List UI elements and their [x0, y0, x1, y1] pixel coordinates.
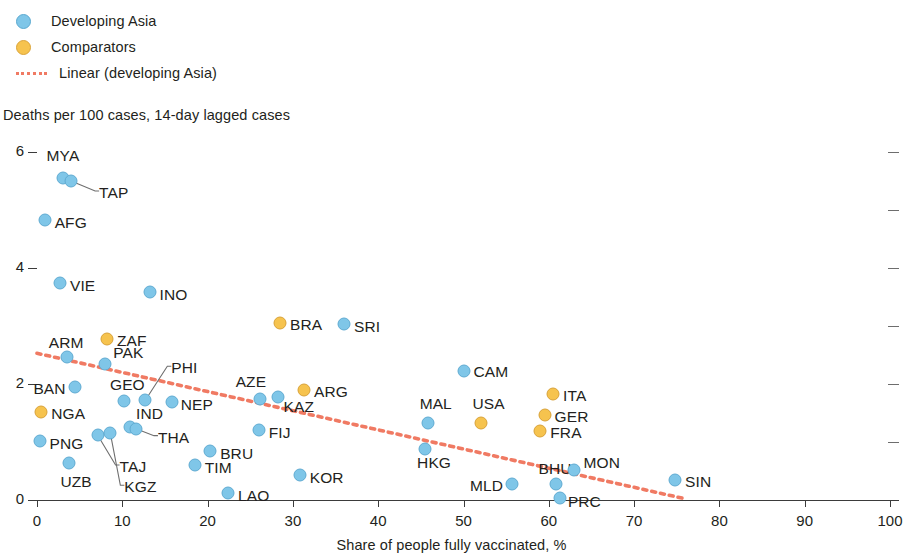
y-tick-right-2 — [888, 384, 899, 385]
data-point-geo[interactable] — [118, 394, 131, 407]
point-label-png: PNG — [50, 435, 84, 453]
data-point-pak[interactable] — [99, 357, 112, 370]
point-label-fra: FRA — [550, 424, 581, 442]
data-point-bru[interactable] — [204, 444, 217, 457]
point-label-bru: BRU — [220, 445, 253, 463]
y-tick-right-5 — [888, 210, 899, 211]
point-label-arg: ARG — [314, 383, 348, 401]
data-point-bhu[interactable] — [550, 478, 563, 491]
data-point-kor[interactable] — [293, 469, 306, 482]
point-label-ind: IND — [136, 405, 163, 423]
x-tick-label-80: 80 — [699, 512, 739, 529]
x-tick-20 — [208, 500, 209, 507]
point-label-ino: INO — [160, 286, 188, 304]
x-tick-90 — [805, 500, 806, 507]
data-point-aze[interactable] — [253, 393, 266, 406]
y-tick-right-1 — [888, 442, 899, 443]
point-label-tha: THA — [158, 429, 189, 447]
y-tick-label-2: 2 — [6, 374, 24, 391]
x-tick-label-70: 70 — [614, 512, 654, 529]
point-label-hkg: HKG — [417, 454, 451, 472]
x-tick-80 — [719, 500, 720, 507]
data-point-ban[interactable] — [69, 380, 82, 393]
data-point-afg[interactable] — [38, 214, 51, 227]
data-point-prc[interactable] — [553, 491, 566, 504]
x-tick-label-100: 100 — [870, 512, 903, 529]
point-label-nep: NEP — [181, 396, 213, 414]
y-tick-right-6 — [888, 152, 899, 153]
data-point-mon[interactable] — [567, 463, 580, 476]
point-label-vie: VIE — [70, 277, 95, 295]
x-tick-label-10: 10 — [102, 512, 142, 529]
x-tick-50 — [464, 500, 465, 507]
data-point-nep[interactable] — [165, 395, 178, 408]
data-point-usa[interactable] — [474, 417, 487, 430]
y-tick-label-6: 6 — [6, 142, 24, 159]
data-point-tap[interactable] — [65, 175, 78, 188]
data-point-fra[interactable] — [534, 424, 547, 437]
data-point-kgz[interactable] — [104, 427, 117, 440]
point-label-bra: BRA — [290, 316, 322, 334]
x-tick-30 — [293, 500, 294, 507]
data-point-arg[interactable] — [297, 383, 310, 396]
data-point-tim[interactable] — [188, 459, 201, 472]
x-tick-label-40: 40 — [358, 512, 398, 529]
point-label-tap: TAP — [99, 184, 128, 202]
point-label-afg: AFG — [55, 214, 87, 232]
point-label-sri: SRI — [354, 318, 380, 336]
x-tick-100 — [890, 500, 891, 507]
data-point-fij[interactable] — [252, 424, 265, 437]
point-label-mya: MYA — [47, 147, 80, 165]
y-tick-right-3 — [888, 326, 899, 327]
x-tick-label-0: 0 — [17, 512, 57, 529]
x-tick-label-90: 90 — [785, 512, 825, 529]
data-point-kaz[interactable] — [271, 391, 284, 404]
y-tick-6 — [28, 152, 37, 153]
data-point-mal[interactable] — [421, 417, 434, 430]
x-tick-10 — [122, 500, 123, 507]
y-tick-0 — [28, 500, 37, 501]
x-tick-label-20: 20 — [188, 512, 228, 529]
y-tick-4 — [28, 268, 37, 269]
data-point-nga[interactable] — [35, 405, 48, 418]
point-label-zaf: ZAF — [117, 332, 147, 350]
data-point-ger[interactable] — [538, 408, 551, 421]
point-label-sin: SIN — [685, 473, 711, 491]
chart-page: Developing Asia Comparators Linear (deve… — [0, 0, 903, 560]
data-point-cam[interactable] — [457, 365, 470, 378]
data-point-taj[interactable] — [91, 429, 104, 442]
point-label-ita: ITA — [563, 387, 586, 405]
data-point-zaf[interactable] — [100, 333, 113, 346]
point-label-nga: NGA — [51, 405, 85, 423]
point-label-ban: BAN — [33, 380, 65, 398]
data-point-mld[interactable] — [506, 477, 519, 490]
x-tick-label-30: 30 — [273, 512, 313, 529]
data-point-sin[interactable] — [669, 474, 682, 487]
data-point-uzb[interactable] — [63, 456, 76, 469]
data-point-png[interactable] — [33, 434, 46, 447]
x-tick-label-50: 50 — [444, 512, 484, 529]
point-label-kor: KOR — [310, 469, 344, 487]
data-point-bra[interactable] — [274, 316, 287, 329]
y-tick-label-4: 4 — [6, 258, 24, 275]
point-label-aze: AZE — [236, 373, 266, 391]
data-point-vie[interactable] — [54, 276, 67, 289]
x-tick-60 — [549, 500, 550, 507]
scatter-plot-area: 01020304050607080901000246MYATAPAFGVIEIN… — [0, 0, 903, 560]
point-label-taj: TAJ — [120, 458, 147, 476]
point-label-prc: PRC — [568, 493, 601, 511]
data-point-tha[interactable] — [129, 422, 142, 435]
data-point-ita[interactable] — [547, 387, 560, 400]
point-label-cam: CAM — [474, 363, 509, 381]
point-label-lao: LAO — [238, 487, 269, 505]
data-point-arm[interactable] — [60, 350, 73, 363]
point-label-mal: MAL — [420, 395, 452, 413]
x-axis-title: Share of people fully vaccinated, % — [0, 537, 903, 553]
point-label-fij: FIJ — [269, 424, 291, 442]
data-point-lao[interactable] — [222, 487, 235, 500]
data-point-ino[interactable] — [143, 285, 156, 298]
point-label-mld: MLD — [470, 477, 503, 495]
x-tick-0 — [37, 500, 38, 507]
data-point-sri[interactable] — [338, 317, 351, 330]
y-tick-right-4 — [888, 268, 899, 269]
